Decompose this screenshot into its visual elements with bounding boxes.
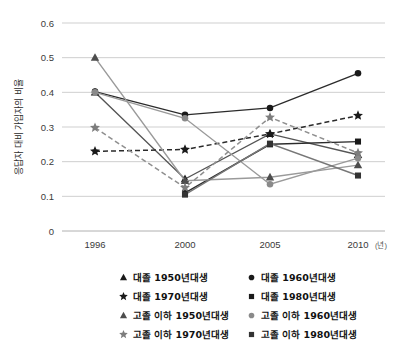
legend-item-label: 고졸 이하 1970년대생 [133,329,229,340]
circle-icon [246,310,257,321]
legend-item-label: 고졸 이하 1980년대생 [261,329,357,340]
legend-item-label: 고졸 이하 1960년대생 [261,310,357,321]
series-star [90,112,363,192]
star-marker [180,144,190,154]
series-line [95,58,358,181]
square-marker [355,139,361,145]
star-marker [265,112,275,122]
x-tick-label: 2010 [347,239,368,250]
square-icon [246,329,257,340]
series-triangle [91,88,362,182]
circle-marker [267,181,274,188]
series-circle [92,70,362,118]
legend-item-label: 대졸 1970년대생 [133,291,208,302]
chart-figure: 00.10.20.30.40.50.6 1996200020052010 응답자… [0,0,398,360]
triangle-icon [118,310,129,321]
square-marker [249,332,254,337]
triangle-marker [120,312,127,319]
circle-marker [249,313,255,319]
y-tick-label: 0.2 [41,156,54,167]
legend-item[interactable]: 고졸 이하 1960년대생 [246,306,386,325]
star-marker [90,146,100,155]
legend-item[interactable]: 고졸 이하 1970년대생 [118,325,246,344]
y-tick-label: 0.3 [41,122,54,133]
x-axis-unit-label: (년) [375,240,387,250]
x-tick-label: 1996 [84,239,105,250]
grid-lines [62,23,385,231]
legend-item[interactable]: 고졸 이하 1980년대생 [246,325,386,344]
legend-item[interactable]: 대졸 1970년대생 [118,287,246,306]
y-tick-label: 0.5 [41,52,54,63]
legend-item[interactable]: 대졸 1950년대생 [118,268,246,287]
series-line [95,92,358,179]
legend-item[interactable]: 대졸 1980년대생 [246,287,386,306]
circle-marker [249,275,255,281]
star-icon [118,329,129,340]
series-star [90,110,363,155]
star-icon [118,291,129,302]
y-tick-label: 0 [49,226,54,237]
circle-marker [182,115,189,122]
x-tick-label: 2000 [174,239,195,250]
y-tick-label: 0.4 [41,87,54,98]
circle-marker [92,89,99,96]
y-tick-label: 0.1 [41,191,54,202]
square-marker [182,192,188,198]
star-marker [353,110,363,120]
x-tick-label: 2005 [259,239,280,250]
legend-item[interactable]: 대졸 1960년대생 [246,268,386,287]
square-marker [249,294,254,299]
circle-marker [267,105,274,112]
series-line [95,117,358,187]
y-tick-label: 0.6 [41,18,54,29]
series-line [95,73,358,115]
triangle-icon [118,272,129,283]
star-marker [119,330,128,338]
circle-marker [355,70,362,77]
legend-item[interactable]: 고졸 이하 1950년대생 [118,306,246,325]
y-axis-ticks: 00.10.20.30.40.50.6 [41,18,54,237]
legend-item-label: 대졸 1960년대생 [261,272,336,283]
triangle-marker [120,274,127,281]
square-icon [246,291,257,302]
circle-icon [246,272,257,283]
data-series-group [90,53,363,197]
legend-item-label: 대졸 1980년대생 [261,291,336,302]
series-triangle [91,53,362,184]
legend-item-label: 고졸 이하 1950년대생 [133,310,229,321]
legend-item-label: 대졸 1950년대생 [133,272,208,283]
chart-legend: 대졸 1950년대생대졸 1960년대생대졸 1970년대생대졸 1980년대생… [118,268,386,344]
y-axis-label: 응답자 대비 가입자의 비율 [13,79,24,176]
square-marker [355,173,361,179]
triangle-marker [91,53,99,61]
square-marker [267,141,273,147]
star-marker [119,292,128,300]
x-axis-ticks: 1996200020052010 [84,239,368,250]
